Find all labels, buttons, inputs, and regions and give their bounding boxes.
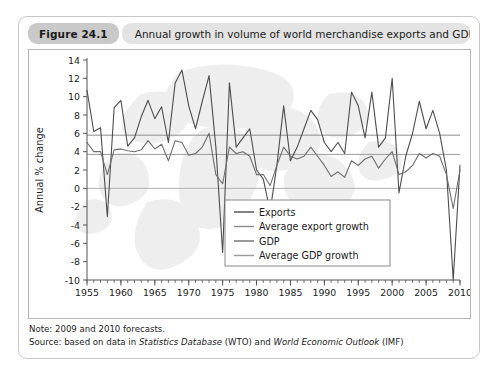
y-tick-label: 12 <box>68 73 80 84</box>
y-tick-label: 8 <box>74 110 80 121</box>
y-tick-label: -2 <box>71 201 80 212</box>
x-tick-label: 1960 <box>109 287 133 298</box>
x-tick-label: 2010 <box>448 287 470 298</box>
x-tick-label: 1970 <box>177 287 201 298</box>
source-mid: (WTO) and <box>222 337 274 347</box>
y-tick-label: -10 <box>65 275 80 286</box>
figure-footer: Note: 2009 and 2010 forecasts. Source: b… <box>29 323 469 349</box>
x-tick-label: 1965 <box>143 287 167 298</box>
y-tick-label: 4 <box>74 146 80 157</box>
x-tick-label: 1975 <box>211 287 235 298</box>
figure-number-badge: Figure 24.1 <box>28 23 119 44</box>
y-tick-label: 10 <box>68 91 80 102</box>
y-tick-label: -6 <box>71 238 80 249</box>
source-suffix: (IMF) <box>379 337 403 347</box>
legend-label: Average GDP growth <box>259 250 358 261</box>
chart-svg: 14121086420-2-4-6-8-10195519601965197019… <box>29 50 470 318</box>
y-tick-label: 6 <box>74 128 80 139</box>
y-tick-label: 2 <box>74 165 80 176</box>
y-tick-label: 14 <box>68 55 80 66</box>
legend-label: GDP <box>259 236 280 247</box>
figure-title: Annual growth in volume of world merchan… <box>122 23 470 44</box>
x-tick-label: 1985 <box>279 287 303 298</box>
x-tick-label: 2005 <box>414 287 438 298</box>
figure-source: Source: based on data in Statistics Data… <box>29 336 469 349</box>
figure-header: Figure 24.1 Annual growth in volume of w… <box>28 23 470 44</box>
y-axis-title: Annual % change <box>34 127 45 213</box>
figure-note: Note: 2009 and 2010 forecasts. <box>29 323 469 336</box>
x-tick-label: 1980 <box>245 287 269 298</box>
x-tick-label: 2000 <box>380 287 404 298</box>
chart-plot-frame: 14121086420-2-4-6-8-10195519601965197019… <box>28 49 471 319</box>
source-prefix: Source: based on data in <box>29 337 139 347</box>
figure-card: Figure 24.1 Annual growth in volume of w… <box>18 16 480 359</box>
y-tick-label: 0 <box>74 183 80 194</box>
source-item-2: World Economic Outlook <box>274 337 380 347</box>
x-tick-label: 1990 <box>312 287 336 298</box>
y-tick-label: -4 <box>71 220 80 231</box>
legend-label: Exports <box>259 207 295 218</box>
x-tick-label: 1955 <box>75 287 99 298</box>
y-tick-label: -8 <box>71 256 80 267</box>
x-tick-label: 1995 <box>346 287 370 298</box>
legend-label: Average export growth <box>259 221 369 232</box>
source-item-1: Statistics Database <box>139 337 222 347</box>
chart-legend: ExportsAverage export growthGDPAverage G… <box>225 200 390 266</box>
